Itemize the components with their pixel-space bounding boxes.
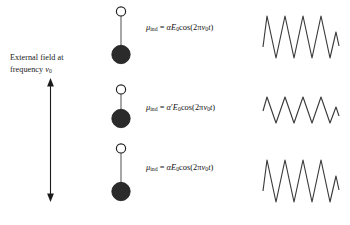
filled-atom bbox=[112, 45, 130, 63]
mu-subscript: ind bbox=[150, 106, 157, 112]
mu-subscript: ind bbox=[150, 166, 157, 172]
equals-sign: = bbox=[158, 163, 167, 172]
equation-row-2: μind = αE0cos(2πν0t) bbox=[146, 163, 213, 172]
molecule-row-0 bbox=[104, 5, 138, 67]
caption-frequency-word: frequency bbox=[10, 65, 45, 74]
external-field-caption: External field at frequency ν0 bbox=[10, 52, 114, 77]
external-field-arrow bbox=[44, 78, 57, 202]
close-paren: ) bbox=[211, 23, 214, 32]
arrowhead-down bbox=[47, 194, 54, 203]
mu-subscript: ind bbox=[150, 26, 157, 32]
close-paren: ) bbox=[212, 103, 215, 112]
cosine-open: cos(2π bbox=[179, 163, 202, 172]
equals-sign: = bbox=[158, 23, 167, 32]
equation-row-0: μind = αE0cos(2πν0t) bbox=[146, 23, 213, 32]
equals-sign: = bbox=[158, 103, 167, 112]
molecule-row-1 bbox=[104, 83, 138, 135]
waveform-row-1 bbox=[262, 92, 344, 134]
waveform-row-0 bbox=[262, 8, 344, 66]
filled-atom bbox=[112, 182, 130, 200]
equation-row-1: μind = α′E0cos(2πν0t) bbox=[146, 103, 215, 112]
open-atom bbox=[116, 85, 125, 94]
close-paren: ) bbox=[211, 163, 214, 172]
open-atom bbox=[116, 144, 125, 153]
arrowhead-up bbox=[47, 78, 54, 87]
cosine-open: cos(2π bbox=[181, 103, 204, 112]
cosine-open: cos(2π bbox=[179, 23, 202, 32]
filled-atom bbox=[112, 109, 130, 127]
molecule-row-2 bbox=[104, 142, 138, 204]
nu-subscript: 0 bbox=[49, 68, 52, 74]
caption-line-1: External field at bbox=[10, 52, 114, 64]
waveform-row-2 bbox=[262, 152, 344, 210]
caption-line-2: frequency ν0 bbox=[10, 64, 114, 78]
figure-canvas: External field at frequency ν0 μind = αE… bbox=[0, 0, 350, 225]
open-atom bbox=[116, 7, 125, 16]
